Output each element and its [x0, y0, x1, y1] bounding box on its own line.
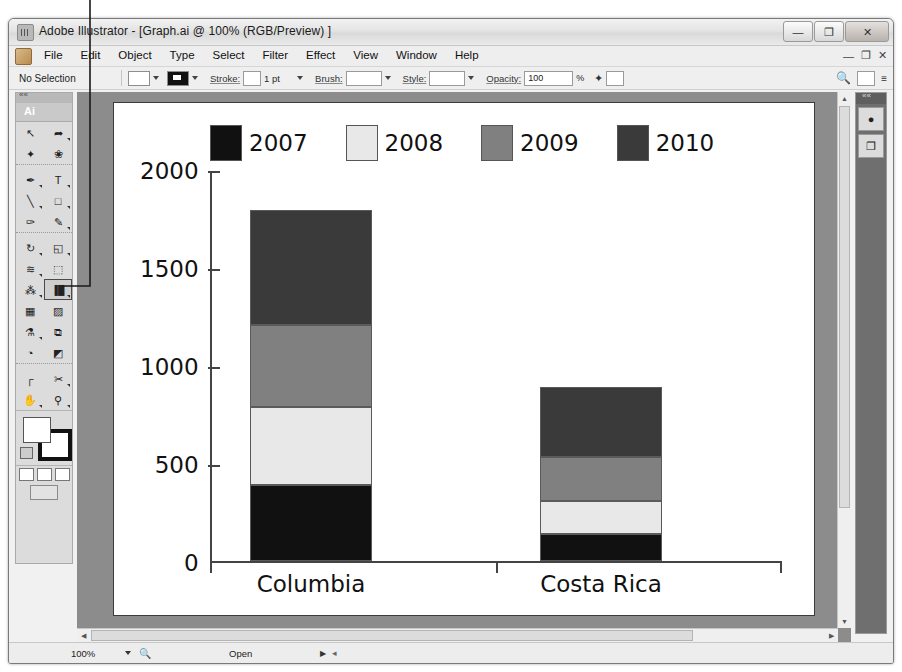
gradient-tool[interactable]: ▨ [44, 300, 72, 321]
stroke-stepper[interactable] [243, 71, 261, 86]
zoom-level[interactable]: 100% [71, 648, 123, 659]
opacity-control[interactable]: Opacity: 100 % [486, 71, 584, 86]
transparency-icon[interactable]: ✦ [594, 72, 603, 85]
panel-menu-icon[interactable]: ≡ [881, 73, 887, 84]
bar-segment-2008[interactable] [540, 501, 662, 534]
menu-item-type[interactable]: Type [161, 49, 204, 61]
slice-tool[interactable]: ✂ [44, 368, 72, 389]
pencil-tool[interactable]: ✎ [44, 211, 72, 232]
style-control[interactable]: Style: [403, 71, 475, 86]
bar-columbia[interactable] [250, 210, 372, 561]
fill-stroke-controls[interactable] [16, 410, 72, 465]
artboard-tool[interactable]: ┌ [16, 368, 44, 389]
transparency-dropdown[interactable] [606, 71, 624, 86]
stroke-value[interactable]: 1 pt [264, 73, 294, 84]
menu-item-effect[interactable]: Effect [297, 49, 344, 61]
gradient-mode-button[interactable] [37, 468, 52, 481]
menu-item-select[interactable]: Select [204, 49, 254, 61]
doc-minimize-icon[interactable]: — [843, 50, 854, 62]
scroll-right-icon[interactable]: ▶ [825, 629, 838, 642]
rectangle-tool[interactable]: □ [44, 190, 72, 211]
default-fill-stroke-icon[interactable] [20, 447, 33, 459]
opacity-input[interactable]: 100 [524, 71, 573, 86]
rotate-tool[interactable]: ↻ [16, 237, 44, 258]
none-mode-button[interactable] [55, 468, 70, 481]
color-panel-button[interactable]: ● [858, 107, 884, 131]
scale-tool[interactable]: ◱ [44, 237, 72, 258]
horizontal-scroll-thumb[interactable] [91, 630, 693, 641]
chevron-down-icon[interactable] [468, 76, 474, 80]
artboard[interactable]: 2007 2008 2009 2010 [113, 102, 815, 616]
eyedropper-tool[interactable]: ⚗ [16, 321, 44, 342]
selection-tool[interactable]: ↖ [16, 122, 44, 143]
menu-item-filter[interactable]: Filter [254, 49, 298, 61]
color-mode-button[interactable] [19, 468, 34, 481]
fill-swatch[interactable] [128, 71, 150, 86]
menu-item-file[interactable]: File [35, 49, 72, 61]
stroke-swatch[interactable] [167, 71, 189, 86]
graph-tool[interactable]: ▐█ [44, 279, 72, 300]
canvas-area[interactable]: 2007 2008 2009 2010 [77, 92, 851, 642]
mesh-tool[interactable]: ▦ [16, 300, 44, 321]
paintbrush-tool[interactable]: ✑ [16, 211, 44, 232]
chevron-down-icon[interactable] [297, 76, 303, 80]
pen-tool[interactable]: ✒ [16, 169, 44, 190]
line-segment-tool[interactable]: ╲ [16, 190, 44, 211]
horizontal-scrollbar[interactable]: ◀ ▶ [77, 628, 838, 642]
status-nav-icon[interactable]: ▶ [320, 649, 326, 658]
brush-control[interactable]: Brush: [315, 71, 390, 86]
bar-segment-2007[interactable] [540, 534, 662, 561]
hand-tool[interactable]: ✋ [16, 389, 44, 410]
menu-item-object[interactable]: Object [109, 49, 160, 61]
warp-tool[interactable]: ≋ [16, 258, 44, 279]
stroke-color-control[interactable] [167, 71, 198, 86]
type-tool[interactable]: T [44, 169, 72, 190]
live-paint-selection-tool[interactable]: ◩ [44, 342, 72, 363]
doc-close-icon[interactable]: ✕ [878, 49, 887, 62]
bar-segment-2008[interactable] [250, 407, 372, 485]
vertical-scrollbar[interactable]: ▲ ▼ [837, 92, 851, 628]
live-paint-bucket-tool[interactable]: ◔ [16, 342, 44, 363]
symbol-sprayer-tool[interactable]: ⁂ [16, 279, 44, 300]
window-close-button[interactable]: ✕ [845, 21, 889, 42]
chevron-down-icon[interactable] [385, 76, 391, 80]
stroke-weight-control[interactable]: Stroke: 1 pt [210, 71, 303, 86]
control-options-button[interactable] [857, 71, 875, 86]
screen-mode-button[interactable] [30, 485, 58, 500]
direct-selection-tool[interactable]: ➦ [44, 122, 72, 143]
fill-color-control[interactable] [128, 71, 159, 86]
magnifier-icon[interactable]: 🔍 [139, 648, 151, 659]
menu-item-window[interactable]: Window [387, 49, 446, 61]
dock-collapse-button[interactable] [856, 93, 886, 104]
menu-item-edit[interactable]: Edit [72, 49, 110, 61]
bar-costa-rica[interactable] [540, 387, 662, 561]
window-maximize-button[interactable]: ❐ [814, 21, 844, 42]
bar-segment-2007[interactable] [250, 485, 372, 561]
bar-segment-2010[interactable] [250, 210, 372, 325]
lasso-tool[interactable]: ❀ [44, 143, 72, 164]
brush-swatch[interactable] [346, 71, 382, 86]
magic-wand-tool[interactable]: ✦ [16, 143, 44, 164]
chevron-down-icon[interactable] [125, 651, 131, 655]
fill-color-swatch[interactable] [23, 417, 51, 443]
scroll-up-icon[interactable]: ▲ [838, 92, 851, 105]
chevron-down-icon[interactable] [153, 76, 159, 80]
scroll-left-icon[interactable]: ◀ [77, 629, 90, 642]
bar-segment-2009[interactable] [540, 457, 662, 501]
window-minimize-button[interactable]: — [783, 21, 813, 42]
menu-item-view[interactable]: View [344, 49, 387, 61]
zoom-tool[interactable]: ⚲ [44, 389, 72, 410]
bar-segment-2010[interactable] [540, 387, 662, 456]
bar-segment-2009[interactable] [250, 325, 372, 407]
blend-tool[interactable]: ⧉ [44, 321, 72, 342]
chevron-down-icon[interactable] [192, 76, 198, 80]
menu-item-help[interactable]: Help [446, 49, 488, 61]
document-setup-icon[interactable]: 🔍 [836, 71, 851, 85]
scroll-down-icon[interactable]: ▼ [838, 615, 851, 628]
vertical-scroll-thumb[interactable] [839, 106, 850, 508]
doc-restore-icon[interactable]: ❐ [861, 49, 871, 62]
style-swatch[interactable] [429, 71, 465, 86]
free-transform-tool[interactable]: ⬚ [44, 258, 72, 279]
layers-panel-button[interactable]: ❐ [858, 134, 884, 158]
tools-panel-collapse[interactable] [16, 93, 72, 103]
